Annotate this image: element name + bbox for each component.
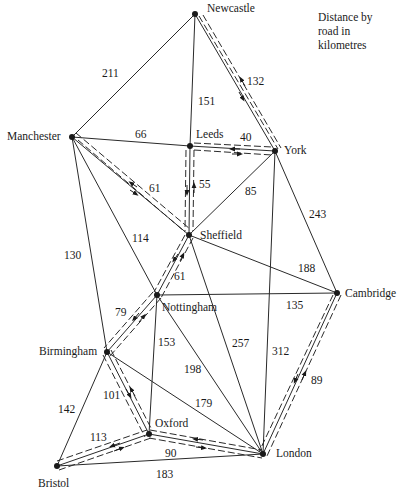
town-dot-york [272, 148, 278, 154]
distance-label: 142 [58, 403, 75, 415]
arrow-icon [131, 389, 135, 396]
road-sheffield-london [189, 235, 263, 454]
town-dot-manchester [69, 134, 75, 140]
distance-label: 188 [298, 262, 315, 274]
legend: Distance by road in kilometres [318, 10, 373, 52]
road-newcastle-leeds [190, 14, 195, 146]
distance-label: 113 [90, 431, 107, 443]
legend-line: kilometres [318, 38, 373, 52]
distance-label: 85 [245, 185, 257, 197]
town-label-york: York [284, 144, 306, 156]
distance-label: 135 [286, 299, 303, 311]
town-label-leeds: Leeds [196, 128, 223, 140]
town-label-london: London [276, 447, 312, 459]
distance-label: 198 [184, 363, 201, 375]
arrow-icon [139, 316, 144, 322]
distance-label: 101 [103, 389, 120, 401]
arrow-icon [130, 190, 136, 194]
distance-label: 243 [309, 208, 326, 220]
road-sheffield-nottingham [157, 235, 189, 295]
legend-line: Distance by [318, 10, 373, 24]
road-network-map [0, 0, 404, 493]
distance-label: 55 [199, 178, 211, 190]
distance-label: 61 [149, 182, 161, 194]
town-dot-bristol [54, 463, 60, 469]
road-manchester-leeds [72, 137, 190, 146]
arrow-icon [126, 389, 130, 396]
road-leeds-sheffield [189, 146, 190, 235]
distance-label: 132 [247, 75, 264, 87]
distance-label: 179 [195, 397, 212, 409]
town-dot-birmingham [104, 349, 110, 355]
road-york-london [263, 151, 275, 454]
town-dot-sheffield [186, 232, 192, 238]
distance-label: 211 [102, 67, 119, 79]
distance-label: 66 [135, 128, 147, 140]
arrow-icon [241, 79, 245, 86]
distance-label: 312 [272, 345, 289, 357]
town-label-oxford: Oxford [155, 417, 188, 429]
road-nottingham-oxford [149, 295, 157, 434]
road-nottingham-birmingham [107, 295, 157, 352]
distance-label: 79 [115, 306, 127, 318]
town-dot-cambridge [334, 290, 340, 296]
town-label-sheffield: Sheffield [200, 229, 242, 241]
road-york-sheffield [189, 151, 275, 235]
road-nottingham-london [157, 295, 263, 454]
arrow-icon [302, 373, 305, 380]
distance-label: 257 [232, 337, 249, 349]
distance-label: 130 [64, 249, 81, 261]
distance-label: 40 [240, 131, 252, 143]
distance-label: 90 [165, 447, 177, 459]
town-label-cambridge: Cambridge [345, 287, 396, 299]
town-label-bristol: Bristol [38, 477, 69, 489]
distance-label: 114 [132, 232, 149, 244]
town-label-newcastle: Newcastle [207, 2, 255, 14]
distance-label: 183 [156, 468, 173, 480]
town-label-birmingham: Birmingham [39, 345, 97, 357]
distance-label: 151 [198, 95, 215, 107]
road-cambridge-london [263, 293, 337, 454]
town-dot-newcastle [192, 11, 198, 17]
arrow-icon [114, 448, 122, 451]
town-label-manchester: Manchester [7, 130, 61, 142]
town-label-nottingham: Nottingham [162, 301, 217, 313]
distance-label: 153 [158, 336, 175, 348]
road-newcastle-manchester [72, 14, 195, 137]
road-nottingham-cambridge [157, 293, 337, 295]
town-dot-nottingham [154, 292, 160, 298]
town-dot-oxford [146, 431, 152, 437]
town-dot-leeds [187, 143, 193, 149]
distance-label: 61 [174, 270, 186, 282]
town-dot-london [260, 451, 266, 457]
legend-line: road in [318, 24, 373, 38]
distance-label: 89 [311, 374, 323, 386]
